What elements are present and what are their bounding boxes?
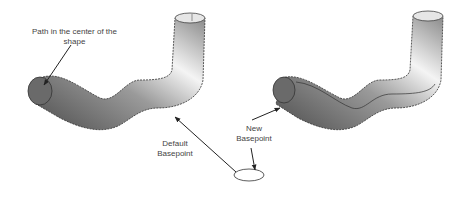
new-basepoint-arrow-to-tube (252, 108, 280, 120)
new-basepoint-line1: New (224, 124, 284, 134)
default-basepoint-label: Default Basepoint (145, 139, 205, 159)
basepoint-profile-circle (234, 169, 264, 181)
right-tube-shape (273, 11, 443, 130)
default-basepoint-line2: Basepoint (145, 149, 205, 159)
new-basepoint-arrow-to-circle (251, 148, 255, 170)
new-basepoint-label: New Basepoint (224, 124, 284, 144)
new-basepoint-line2: Basepoint (224, 134, 284, 144)
path-center-label-line2: shape (22, 37, 127, 47)
default-basepoint-line1: Default (145, 139, 205, 149)
path-center-label: Path in the center of the shape (22, 27, 127, 47)
path-center-label-line1: Path in the center of the (22, 27, 127, 37)
